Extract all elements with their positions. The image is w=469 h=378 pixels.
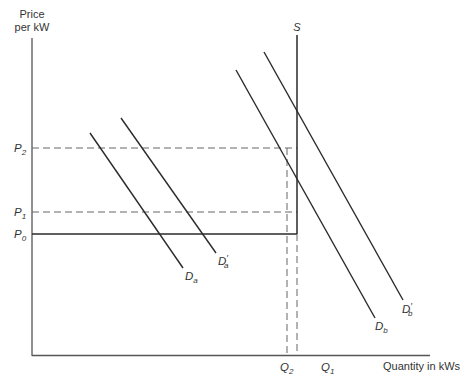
demand-curve-db xyxy=(236,70,375,318)
p2-label: P2 xyxy=(14,142,27,157)
demand-curve-db-prime xyxy=(264,52,403,300)
q1-label: Q1 xyxy=(321,361,334,376)
y-axis-label-line1: Price xyxy=(19,8,44,20)
y-axis-label-line2: per kW xyxy=(15,21,50,33)
demand-curve-da-prime xyxy=(121,118,216,253)
x-axis-label: Quantity in kWs xyxy=(383,360,461,372)
db-prime-label: D′b xyxy=(402,301,413,318)
q2-label: Q2 xyxy=(280,361,294,376)
da-prime-label: D′a xyxy=(218,253,229,270)
demand-curve-da xyxy=(90,133,183,268)
supply-label: S xyxy=(293,21,301,33)
supply-demand-diagram: Price per kW Quantity in kWs S Da D′a Db… xyxy=(0,0,469,378)
p1-label: P1 xyxy=(14,206,26,221)
p0-label: P0 xyxy=(14,228,27,243)
da-label: Da xyxy=(185,270,198,285)
db-label: Db xyxy=(375,320,388,335)
